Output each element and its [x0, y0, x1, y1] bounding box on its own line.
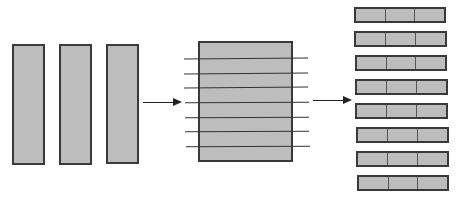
row-block-6	[356, 127, 449, 143]
row-block-8	[357, 175, 449, 191]
row-block-4	[355, 79, 448, 95]
row-block-7	[356, 151, 449, 167]
row-block-1	[354, 7, 446, 23]
input-block-3	[106, 44, 139, 164]
input-block-1	[12, 44, 45, 165]
arrow-right-icon	[313, 100, 350, 101]
row-block-5	[355, 103, 448, 119]
row-block-3	[355, 55, 447, 71]
row-block-2	[354, 31, 447, 47]
arrow-right-icon	[143, 102, 180, 103]
input-block-2	[59, 44, 92, 165]
